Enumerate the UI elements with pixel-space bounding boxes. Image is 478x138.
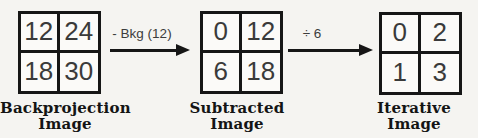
label-line: Subtracted <box>172 100 302 116</box>
matrix-cell: 12 <box>242 14 281 53</box>
matrix-cell: 24 <box>60 14 99 53</box>
arrow-line <box>110 49 176 52</box>
matrix-cell: 18 <box>242 53 281 92</box>
backprojection-label: Backprojection Image <box>0 100 130 132</box>
matrix-cell: 12 <box>21 14 60 53</box>
label-line: Iterative <box>349 100 478 116</box>
subtract-background-arrow: - Bkg (12) <box>110 26 190 52</box>
subtracted-label: Subtracted Image <box>172 100 302 132</box>
matrix-cell: 2 <box>421 15 460 54</box>
arrow-operation-label: ÷ 6 <box>292 26 332 43</box>
arrow-head-icon <box>359 44 373 56</box>
subtracted-matrix: 0 12 6 18 <box>200 11 283 94</box>
matrix-cell: 30 <box>60 53 99 92</box>
divide-arrow: ÷ 6 <box>288 26 373 52</box>
matrix-cell: 6 <box>203 53 242 92</box>
matrix-cell: 18 <box>21 53 60 92</box>
iterative-matrix: 0 2 1 3 <box>379 12 462 95</box>
iterative-label: Iterative Image <box>349 100 478 132</box>
diagram-canvas: 12 24 18 30 Backprojection Image - Bkg (… <box>0 0 478 138</box>
label-line: Image <box>0 116 130 132</box>
label-line: Image <box>172 116 302 132</box>
label-line: Backprojection <box>0 100 130 116</box>
arrow-operation-label: - Bkg (12) <box>110 26 174 43</box>
matrix-cell: 0 <box>203 14 242 53</box>
label-line: Image <box>349 116 478 132</box>
matrix-cell: 1 <box>382 54 421 93</box>
matrix-cell: 0 <box>382 15 421 54</box>
matrix-cell: 3 <box>421 54 460 93</box>
arrow-head-icon <box>176 44 190 56</box>
arrow-line <box>288 49 359 52</box>
backprojection-matrix: 12 24 18 30 <box>18 11 101 94</box>
